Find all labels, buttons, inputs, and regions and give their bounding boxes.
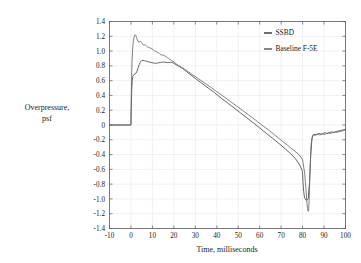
y-tick-label: -0.6 [94, 166, 106, 174]
x-tick-label: 30 [192, 232, 200, 240]
x-tick-label: 90 [320, 232, 328, 240]
overpressure-line-chart: -1.4-1.2-1.0-0.8-0.6-0.4-0.200.20.40.60.… [0, 0, 361, 263]
x-tick-label: 60 [256, 232, 264, 240]
y-tick-label: -0.8 [94, 181, 106, 189]
y-tick-label: -1.2 [94, 210, 106, 218]
y-tick-label: -1.4 [94, 225, 106, 233]
x-axis-title: Time, milliseconds [196, 245, 257, 254]
x-tick-label: 0 [129, 232, 133, 240]
x-tick-label: -10 [105, 232, 115, 240]
y-tick-label: 0.8 [96, 62, 105, 70]
y-tick-label: 0.6 [96, 77, 105, 85]
x-tick-label: 40 [213, 232, 221, 240]
y-tick-label: 1.2 [96, 33, 105, 41]
x-tick-label: 100 [340, 232, 351, 240]
x-tick-label: 50 [235, 232, 243, 240]
y-tick-label: 0.2 [96, 107, 105, 115]
legend-label-1: SSBD [276, 28, 295, 37]
y-tick-label: 0.4 [96, 92, 105, 100]
y-tick-label: -0.2 [94, 136, 106, 144]
chart-figure: -1.4-1.2-1.0-0.8-0.6-0.4-0.200.20.40.60.… [0, 0, 361, 263]
y-tick-label: -0.4 [94, 151, 106, 159]
x-tick-label: 80 [299, 232, 307, 240]
x-tick-label: 10 [149, 232, 157, 240]
legend-label-2: Baseline F-5E [276, 44, 319, 53]
x-tick-label: 70 [278, 232, 286, 240]
y-tick-label: 0 [101, 122, 105, 130]
x-tick-label: 20 [170, 232, 178, 240]
y-axis-title-line1: Overpressure, [25, 103, 70, 112]
y-tick-label: -1.0 [94, 196, 106, 204]
y-axis-title-line2: psf [42, 114, 52, 123]
chart-background [0, 0, 361, 263]
y-tick-label: 1.4 [96, 18, 105, 26]
y-tick-label: 1.0 [96, 48, 105, 56]
